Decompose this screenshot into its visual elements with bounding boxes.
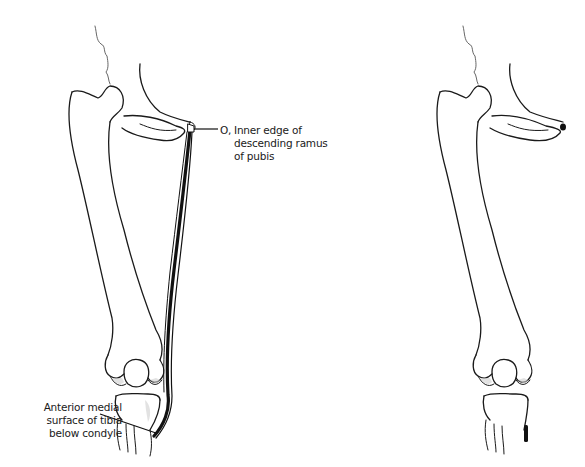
origin-line-1: Inner edge of — [234, 124, 302, 136]
origin-marker: O, — [220, 124, 234, 137]
right-panel-shading — [480, 378, 528, 384]
right-panel-skeleton — [437, 26, 563, 454]
gracilis-muscle — [154, 124, 194, 438]
origin-label: O,Inner edge of descending ramus of pubi… — [220, 124, 380, 163]
insertion-line-3: below condyle — [12, 427, 122, 440]
origin-line-2: descending ramus — [220, 137, 380, 150]
insertion-line-2: surface of tibia — [12, 414, 122, 427]
anatomy-illustration — [0, 0, 585, 467]
origin-line-3: of pubis — [220, 150, 380, 163]
insertion-line-1: Anterior medial — [12, 401, 122, 414]
insertion-attachment-mark — [524, 425, 528, 442]
origin-attachment-mark — [560, 124, 566, 131]
insertion-label: Anterior medial surface of tibia below c… — [12, 401, 122, 440]
